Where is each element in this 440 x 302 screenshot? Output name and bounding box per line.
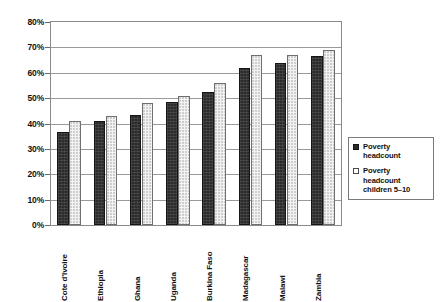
x-axis-label: Burkina Faso xyxy=(208,229,220,301)
bar-group xyxy=(269,22,305,225)
bar-group xyxy=(160,22,196,225)
bar-poverty-headcount-children xyxy=(214,83,226,225)
y-axis-tick-label: 30% xyxy=(2,144,44,154)
legend-label-poverty-headcount-children: Poverty headcount children 5–10 xyxy=(363,166,410,194)
x-axis-label: Malawi xyxy=(281,229,293,301)
y-axis: 0%10%20%30%40%50%60%70%80% xyxy=(0,0,44,302)
x-axis-label-text: Malawi xyxy=(278,275,287,301)
y-axis-tick-label: 20% xyxy=(2,169,44,179)
bar-group xyxy=(196,22,232,225)
bar-group xyxy=(305,22,341,225)
legend-item-poverty-headcount-children: Poverty headcount children 5–10 xyxy=(353,166,430,194)
bar-poverty-headcount-children xyxy=(69,121,81,225)
legend-swatch-dark-icon xyxy=(353,144,359,150)
bar-poverty-headcount-children xyxy=(287,55,299,225)
bar-poverty-headcount-children xyxy=(178,96,190,225)
chart-legend: Poverty headcount Poverty headcount chil… xyxy=(348,137,434,200)
bar-poverty-headcount xyxy=(94,121,106,225)
legend-swatch-light-icon xyxy=(353,168,359,174)
x-axis-category-labels: Cote d'IvoireEthiopiaGhanaUgandaBurkina … xyxy=(51,227,341,302)
legend-label-line1: Poverty xyxy=(363,166,390,175)
bars-layer xyxy=(51,22,341,225)
bar-poverty-headcount xyxy=(166,102,178,225)
y-axis-tick-label: 40% xyxy=(2,119,44,129)
bar-poverty-headcount xyxy=(130,115,142,225)
bar-poverty-headcount-children xyxy=(106,116,118,225)
y-axis-tick-label: 0% xyxy=(2,220,44,230)
legend-label-line3: children 5–10 xyxy=(363,185,410,194)
x-axis-label-text: Uganda xyxy=(169,272,178,301)
y-axis-tick-label: 50% xyxy=(2,93,44,103)
poverty-headcount-bar-chart: 0%10%20%30%40%50%60%70%80% Cote d'Ivoire… xyxy=(0,0,440,302)
bar-poverty-headcount xyxy=(202,92,214,225)
legend-label-line1: Poverty xyxy=(363,142,390,151)
bar-poverty-headcount xyxy=(239,68,251,225)
x-axis-label-text: Zambia xyxy=(314,274,323,301)
legend-item-poverty-headcount: Poverty headcount xyxy=(353,142,430,160)
x-axis-label: Uganda xyxy=(172,229,184,301)
bar-poverty-headcount-children xyxy=(251,55,263,225)
bar-group xyxy=(232,22,268,225)
bar-poverty-headcount-children xyxy=(142,103,154,225)
bar-group xyxy=(87,22,123,225)
bar-poverty-headcount xyxy=(311,56,323,225)
bar-poverty-headcount-children xyxy=(323,50,335,225)
y-axis-tick-label: 80% xyxy=(2,17,44,27)
bar-poverty-headcount xyxy=(275,63,287,225)
x-axis-label: Ghana xyxy=(136,229,148,301)
x-axis-label-text: Burkina Faso xyxy=(205,252,214,301)
x-axis-label-text: Madagascar xyxy=(241,256,250,301)
bar-poverty-headcount xyxy=(57,132,69,225)
y-axis-tick-label: 70% xyxy=(2,42,44,52)
x-axis-label-text: Cote d'Ivoire xyxy=(60,254,69,301)
x-axis-label-text: Ethiopia xyxy=(96,270,105,301)
y-axis-tick-label: 60% xyxy=(2,68,44,78)
legend-label-line2: headcount xyxy=(363,151,401,160)
x-axis-label: Ethiopia xyxy=(99,229,111,301)
x-axis-label: Zambia xyxy=(317,229,329,301)
bar-group xyxy=(51,22,87,225)
legend-label-poverty-headcount: Poverty headcount xyxy=(363,142,401,160)
bar-group xyxy=(124,22,160,225)
x-axis-label: Madagascar xyxy=(244,229,256,301)
x-axis-label: Cote d'Ivoire xyxy=(63,229,75,301)
y-axis-tick-label: 10% xyxy=(2,195,44,205)
legend-label-line2: headcount xyxy=(363,176,401,185)
x-axis-label-text: Ghana xyxy=(133,277,142,301)
